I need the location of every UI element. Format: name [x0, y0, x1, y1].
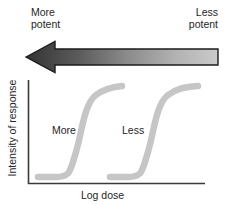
axis-label-y: Intensity of response — [6, 68, 18, 188]
axis-label-x: Log dose — [0, 189, 205, 201]
potency-figure: More potent Less potent More Less Log do… — [0, 0, 231, 204]
curve-label-less: Less — [122, 124, 144, 136]
potency-gradient-arrow — [26, 42, 218, 73]
more-potent-curve — [38, 86, 122, 177]
curve-label-more: More — [52, 124, 76, 136]
figure-canvas — [0, 0, 231, 204]
